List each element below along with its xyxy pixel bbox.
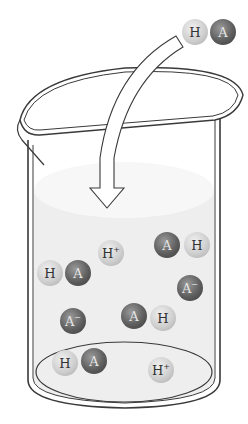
particle-label: A <box>218 25 227 40</box>
particle-label: H <box>191 238 202 253</box>
a-particle: A <box>81 348 107 374</box>
charge-label: − <box>191 280 198 289</box>
beaker-spout <box>17 120 44 165</box>
particle-label: H <box>102 246 113 261</box>
particle-label: H <box>189 25 200 40</box>
particle-label: A <box>65 314 74 329</box>
charge-label: + <box>113 245 120 254</box>
h-particle: H <box>150 305 176 331</box>
a-particle: A <box>154 232 180 258</box>
particle-label: H <box>152 363 163 378</box>
particle-label: A <box>182 281 191 296</box>
particle-label: H <box>44 266 55 281</box>
incoming-a-particle: A <box>210 19 236 45</box>
particle-label: A <box>129 309 138 324</box>
h-particle: H <box>52 350 78 376</box>
beaker-diagram: H A H+AHHAA−A−AHHAH+ <box>0 0 248 424</box>
charge-label: + <box>163 362 170 371</box>
particle-label: A <box>89 354 98 369</box>
particle-label: A <box>162 238 171 253</box>
incoming-h-particle: H <box>182 19 208 45</box>
particle-label: H <box>59 356 70 371</box>
a-particle: A− <box>60 308 86 334</box>
beaker-illustration <box>0 0 248 424</box>
a-particle: A <box>121 303 147 329</box>
particle-label: A <box>73 266 82 281</box>
h-particle: H <box>37 260 63 286</box>
liquid-surface <box>34 162 214 218</box>
particle-label: H <box>157 311 168 326</box>
h-particle: H <box>184 232 210 258</box>
h-particle: H+ <box>148 357 174 383</box>
a-particle: A− <box>177 275 203 301</box>
a-particle: A <box>65 260 91 286</box>
charge-label: − <box>74 313 81 322</box>
h-particle: H+ <box>98 240 124 266</box>
